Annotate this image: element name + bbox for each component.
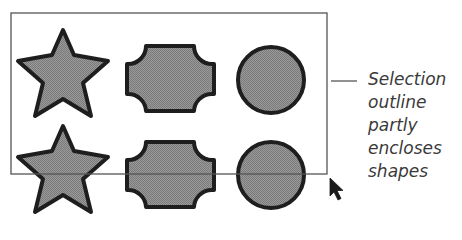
callout-line: encloses (368, 137, 446, 160)
circle-shape-bottom (238, 142, 304, 208)
circle-shape-top (238, 47, 304, 113)
star-shape-bottom (18, 126, 108, 212)
callout-line: shapes (368, 160, 446, 183)
callout-line: Selection (368, 68, 446, 91)
callout-text: Selection outline partly encloses shapes (368, 68, 446, 183)
callout-line: partly (368, 114, 446, 137)
cross-shape-top (127, 46, 214, 111)
callout-line: outline (368, 91, 446, 114)
star-shape-top (18, 30, 108, 116)
arrow-pointer-icon (330, 178, 343, 200)
